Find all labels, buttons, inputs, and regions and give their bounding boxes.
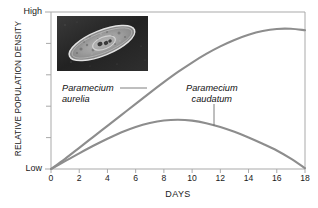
- x-tick-label: 8: [154, 173, 174, 183]
- population-growth-chart: High Low RELATIVE POPULATION DENSITY DAY…: [0, 0, 318, 208]
- series-line-paramecium-caudatum: [51, 120, 305, 169]
- caudatum-genus: Paramecium: [186, 83, 238, 94]
- paramecium-micrograph: [57, 16, 148, 71]
- x-axis-title: DAYS: [51, 189, 305, 199]
- x-tick-label: 16: [267, 173, 287, 183]
- y-axis-title: RELATIVE POPULATION DENSITY: [14, 9, 23, 169]
- paramecium-caudatum-label: Paramecium caudatum: [186, 83, 238, 104]
- x-tick-label: 14: [239, 173, 259, 183]
- y-axis-low-label: Low: [4, 163, 42, 173]
- aurelia-species: aurelia: [62, 94, 114, 105]
- x-tick-label: 12: [210, 173, 230, 183]
- paramecium-aurelia-label: Paramecium aurelia: [62, 83, 114, 104]
- x-tick-label: 10: [182, 173, 202, 183]
- caudatum-species: caudatum: [186, 94, 238, 105]
- x-tick-label: 4: [97, 173, 117, 183]
- x-tick-label: 2: [69, 173, 89, 183]
- y-axis-high-label: High: [4, 6, 42, 16]
- x-tick-label: 18: [295, 173, 315, 183]
- x-tick-label: 6: [126, 173, 146, 183]
- aurelia-genus: Paramecium: [62, 83, 114, 94]
- x-tick-label: 0: [41, 173, 61, 183]
- y-axis-ticks: [45, 12, 51, 169]
